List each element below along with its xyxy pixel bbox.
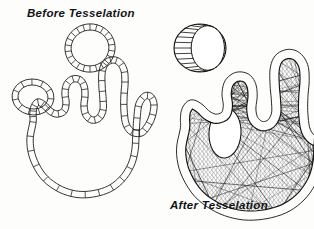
caption-after-tesselation: After Tesselation <box>170 199 268 211</box>
tesselation-illustration <box>0 0 314 229</box>
caption-before-tesselation: Before Tesselation <box>27 7 135 19</box>
hand-mesh-triangulation <box>0 0 314 229</box>
panel-after-tesselation <box>0 0 314 229</box>
ring-upper-band <box>65 24 115 72</box>
ring-left-band <box>12 79 54 115</box>
hand-outline-band <box>27 57 157 198</box>
tesselation-figure: Before Tesselation After Tesselation <box>0 0 314 229</box>
panel-before-tesselation <box>12 24 157 198</box>
ring-cylinder-mesh <box>174 24 226 72</box>
